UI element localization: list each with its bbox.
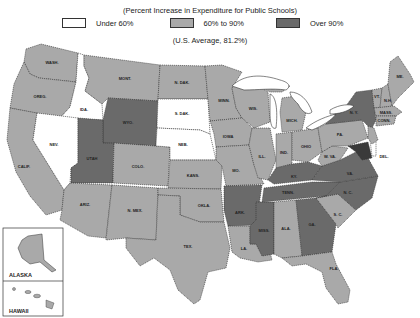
lake-michigan [270, 94, 277, 128]
label-ny: N. Y. [350, 110, 358, 115]
label-iowa: IOWA [223, 134, 234, 139]
label-nev: NEV. [50, 142, 59, 147]
label-me: ME. [396, 74, 403, 79]
label-sc: S. C. [334, 212, 343, 217]
label-alaska: ALASKA [9, 272, 32, 278]
inset: ALASKA HAWAII [3, 228, 63, 316]
us-map: WASH. OREG. CALIF. IDA. NEV. MONT. WYO. … [0, 0, 420, 318]
state-ariz [60, 183, 112, 238]
label-kans: KANS. [187, 173, 199, 178]
label-nmex: N. MEX. [128, 208, 143, 213]
label-utah: UTAH [87, 156, 98, 161]
label-ida: IDA. [80, 107, 88, 112]
label-conn: CONN. [378, 118, 391, 123]
label-tenn: TENN. [282, 190, 294, 195]
label-va: VA. [347, 171, 353, 176]
label-mo: MO. [232, 168, 240, 173]
label-ind: IND. [280, 150, 288, 155]
label-ark: ARK. [235, 210, 245, 215]
label-la: LA. [241, 246, 247, 251]
label-colo: COLO. [132, 164, 145, 169]
label-ga: GA. [308, 222, 315, 227]
label-tex: TEX. [184, 244, 193, 249]
label-ky: KY. [291, 174, 297, 179]
lake-superior [232, 76, 289, 90]
label-mich: MICH. [286, 118, 297, 123]
label-fla: FLA. [330, 266, 339, 271]
label-miss: MISS. [259, 228, 270, 233]
label-calif: CALIF. [18, 164, 30, 169]
label-sdak: S. DAK. [175, 111, 190, 116]
label-wis: WIS. [249, 106, 258, 111]
label-nc: N. C. [343, 190, 352, 195]
label-ill: ILL. [258, 154, 265, 159]
label-wva: W. VA. [324, 154, 336, 159]
label-ariz: ARIZ. [80, 202, 90, 207]
state-iowa [210, 118, 252, 147]
label-del: DEL. [379, 154, 388, 159]
label-vt: VT. [374, 94, 380, 99]
label-ohio: OHIO [301, 144, 311, 149]
state-nj [368, 126, 378, 144]
label-mass: MASS. [380, 110, 393, 115]
label-neb: NEB. [178, 142, 188, 147]
label-ala: ALA. [281, 226, 290, 231]
label-wyo: WYO. [123, 120, 134, 125]
label-nh: N.H. [384, 98, 392, 103]
label-okla: OKLA. [198, 203, 210, 208]
label-ore: OREG. [34, 94, 47, 99]
state-fla [282, 252, 350, 304]
label-ndak: N. DAK. [175, 80, 190, 85]
label-hawaii: HAWAII [9, 308, 29, 314]
label-mont: MONT. [119, 76, 131, 81]
label-pa: PA. [337, 132, 343, 137]
label-wash: WASH. [45, 60, 58, 65]
label-minn: MINN. [218, 98, 229, 103]
